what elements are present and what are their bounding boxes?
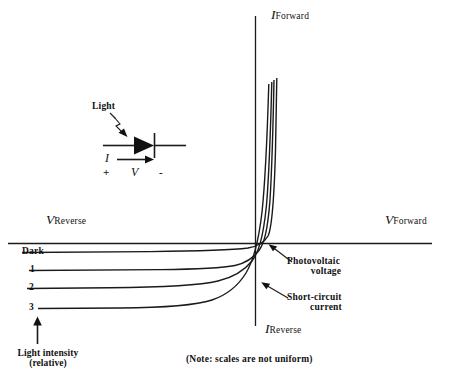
up-arrow-icon xyxy=(33,317,42,326)
current-arrowhead-icon xyxy=(145,156,154,164)
diode-plus-sign: + xyxy=(103,167,109,179)
curve-intensity-2 xyxy=(27,82,272,289)
light-intensity-line1: Light intensity xyxy=(0,348,96,358)
curve-key-2: 2 xyxy=(29,282,34,292)
diode-triangle-icon xyxy=(134,137,154,155)
axis-label-v-forward-subscript: Forward xyxy=(393,216,427,226)
diode-minus-sign: - xyxy=(159,167,163,179)
photodiode-iv-figure: IForward IReverse VReverse VForward Dark… xyxy=(0,0,449,385)
iv-characteristic-diagram xyxy=(0,0,449,385)
diode-light-label: Light xyxy=(92,101,115,111)
axis-label-i-forward: IForward xyxy=(271,8,309,23)
curve-key-3: 3 xyxy=(29,302,34,312)
curve-key-dark: Dark xyxy=(22,246,44,256)
axis-label-v-reverse: VReverse xyxy=(46,213,86,228)
axis-label-i-forward-subscript: Forward xyxy=(276,11,310,21)
annotation-photovoltaic-voltage-line1: Photovoltaic xyxy=(287,256,377,266)
curve-intensity-1 xyxy=(29,80,274,271)
annotation-short-circuit-current: Short-circuit current xyxy=(287,292,379,313)
annotation-short-circuit-current-line2: current xyxy=(287,302,365,312)
annotation-photovoltaic-voltage: Photovoltaic voltage xyxy=(287,256,377,277)
light-label-leader xyxy=(110,113,116,119)
light-intensity-legend: Light intensity (relative) xyxy=(0,348,96,369)
axis-label-v-reverse-symbol: V xyxy=(46,212,54,227)
curve-key-1: 1 xyxy=(30,264,35,274)
annotation-short-circuit-current-line1: Short-circuit xyxy=(287,292,379,302)
axis-label-v-reverse-subscript: Reverse xyxy=(54,216,86,226)
diode-voltage-label: V xyxy=(131,166,138,179)
axis-label-i-reverse: IReverse xyxy=(265,322,302,337)
scales-note: (Note: scales are not uniform) xyxy=(186,354,313,364)
diode-current-label: I xyxy=(105,152,109,165)
light-intensity-line2: (relative) xyxy=(0,358,96,368)
annotation-photovoltaic-voltage-line2: voltage xyxy=(287,266,365,276)
axis-label-v-forward-symbol: V xyxy=(385,212,393,227)
axis-label-i-reverse-subscript: Reverse xyxy=(270,325,302,335)
short-circuit-current-arrowhead xyxy=(261,282,270,289)
axis-label-v-forward: VForward xyxy=(385,213,427,228)
